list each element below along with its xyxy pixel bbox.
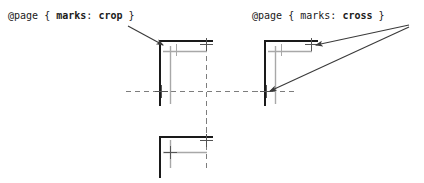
caption-marks-crop: @page { marks: crop }	[8, 10, 135, 22]
cross-mark-bottom-right	[200, 134, 213, 147]
caption-crop-property: marks	[56, 10, 86, 21]
cross-mark-top-right-lower	[260, 85, 273, 98]
annotation-arrow-crop	[128, 26, 163, 45]
caption-marks-cross: @page { marks: cross }	[252, 10, 385, 22]
caption-crop-value: crop	[98, 10, 122, 21]
caption-cross-brace-close: }	[379, 10, 385, 21]
printer-marks-figure: @page { marks: crop } @page { marks: cro…	[0, 0, 424, 183]
cross-diagram	[253, 25, 409, 110]
annotation-arrow-cross-lower	[270, 27, 409, 91]
caption-cross-property: marks	[300, 10, 330, 21]
crop-diagram-top	[126, 26, 253, 135]
caption-crop-brace-close: }	[129, 10, 135, 21]
marks-diagram-svg	[0, 0, 424, 183]
caption-crop-colon: :	[86, 10, 92, 21]
caption-cross-value: cross	[342, 10, 372, 21]
caption-cross-atrule: @page	[252, 10, 282, 21]
caption-crop-atrule: @page	[8, 10, 38, 21]
cross-mark-top-left-upper	[200, 38, 213, 51]
cross-mark-top-left-lower	[155, 85, 168, 98]
caption-cross-colon: :	[330, 10, 336, 21]
cross-mark-bottom-left	[164, 146, 177, 159]
caption-crop-brace-open: {	[44, 10, 50, 21]
caption-cross-brace-open: {	[288, 10, 294, 21]
crop-diagram-bottom	[159, 118, 213, 178]
annotation-arrow-cross-upper	[316, 25, 409, 45]
